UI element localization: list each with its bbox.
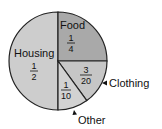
food-label: Food [60,19,85,31]
housing-numerator: 1 [31,61,36,71]
other-label: Other [78,114,106,126]
other-numerator: 1 [63,80,68,90]
pie-chart: Food 1 4 Housing 1 2 3 20 1 10 Clothing … [0,0,162,129]
food-numerator: 1 [68,33,73,43]
food-denominator: 4 [68,44,73,54]
housing-label: Housing [14,47,54,59]
clothing-denominator: 20 [81,76,91,86]
other-arrow-icon [73,110,78,115]
clothing-label: Clothing [109,77,149,89]
other-denominator: 10 [61,91,71,101]
housing-denominator: 2 [31,72,36,82]
clothing-numerator: 3 [83,65,88,75]
